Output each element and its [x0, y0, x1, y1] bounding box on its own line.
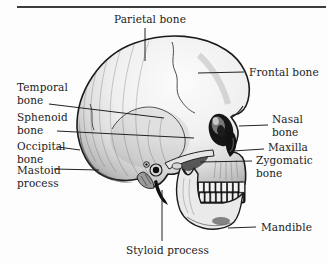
label-zygomatic-bone: Zygomatic bone: [256, 154, 326, 180]
leader-maxilla: [233, 149, 264, 151]
ear-canal: [153, 167, 159, 173]
upper-teeth: [199, 182, 245, 192]
figure-skull-diagram: Parietal bone Frontal bone Temporal bone…: [0, 0, 328, 264]
label-nasal-bone: Nasal bone: [272, 113, 312, 139]
leader-mandible: [228, 227, 256, 228]
small-foramen: [145, 163, 147, 165]
label-temporal-bone: Temporal bone: [17, 81, 75, 107]
label-sphenoid-bone: Sphenoid bone: [17, 111, 75, 137]
label-mastoid-process: Mastoid process: [17, 164, 75, 190]
label-maxilla: Maxilla: [268, 141, 308, 154]
label-frontal-bone: Frontal bone: [249, 66, 319, 79]
label-occipital-bone: Occipital bone: [17, 140, 75, 166]
label-styloid-process: Styloid process: [126, 244, 209, 257]
label-mandible: Mandible: [261, 221, 312, 234]
tmj-condyle: [172, 163, 182, 169]
label-parietal-bone: Parietal bone: [114, 13, 186, 26]
leader-nasal: [239, 125, 268, 126]
